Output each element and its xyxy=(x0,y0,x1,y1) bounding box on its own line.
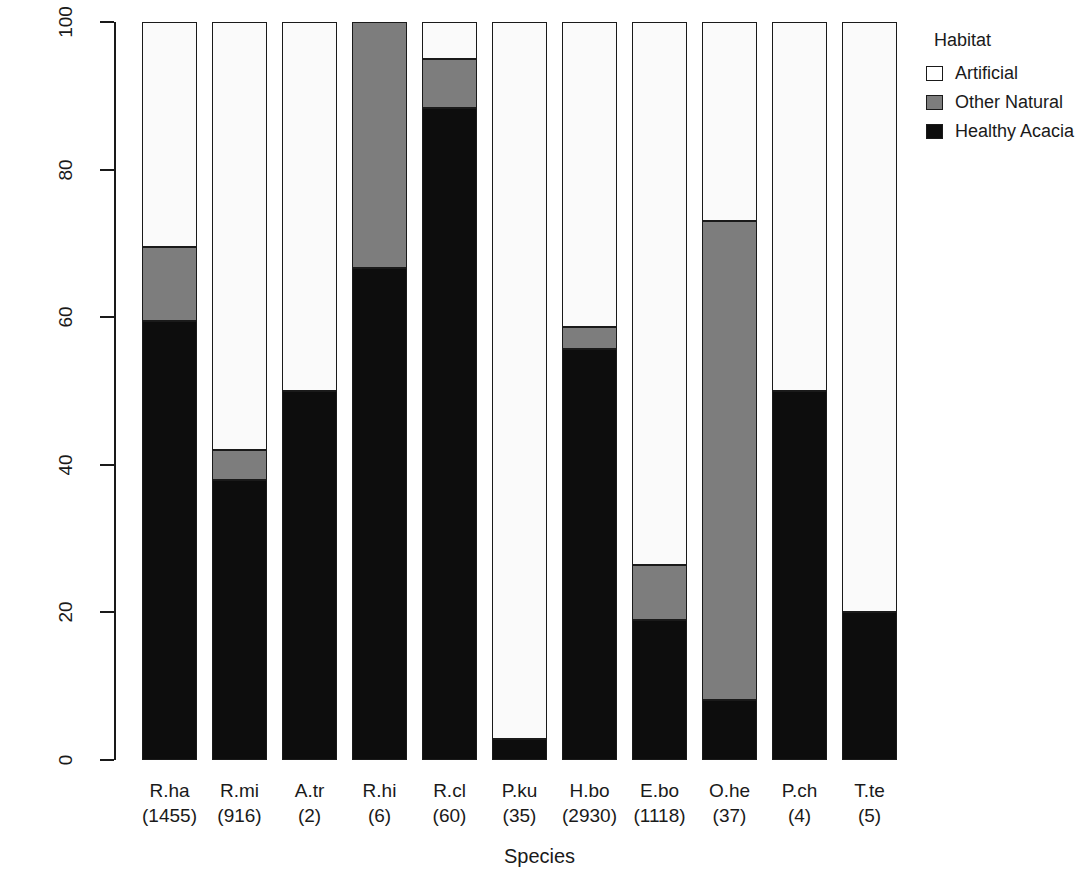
bar-p-ku[interactable] xyxy=(492,22,547,760)
chart-figure: Percent of total passes 020406080100 R.h… xyxy=(0,0,1079,884)
legend-swatch-healthy-icon xyxy=(926,124,943,139)
x-axis-label: T.te(5) xyxy=(825,778,915,828)
bar-segment-artificial[interactable] xyxy=(632,22,687,565)
bar-segment-artificial[interactable] xyxy=(142,22,197,247)
legend-item: Other Natural xyxy=(926,92,1074,113)
y-axis-tick-label: 20 xyxy=(36,601,96,623)
legend-items: ArtificialOther NaturalHealthy Acacia xyxy=(926,63,1074,142)
bar-segment-other[interactable] xyxy=(562,327,617,349)
legend-item: Healthy Acacia xyxy=(926,121,1074,142)
bar-segment-artificial[interactable] xyxy=(842,22,897,612)
legend-swatch-artificial-icon xyxy=(926,66,943,81)
bar-segment-other[interactable] xyxy=(142,247,197,321)
y-axis-tick-label: 40 xyxy=(36,454,96,476)
bar-r-hi[interactable] xyxy=(352,22,407,760)
bar-segment-healthy[interactable] xyxy=(352,268,407,760)
bar-p-ch[interactable] xyxy=(772,22,827,760)
y-axis-tick-label: 0 xyxy=(36,749,96,771)
bar-segment-artificial[interactable] xyxy=(772,22,827,391)
y-axis-tick xyxy=(100,611,114,613)
bar-segment-healthy[interactable] xyxy=(492,739,547,760)
y-axis-tick xyxy=(100,169,114,171)
legend-item: Artificial xyxy=(926,63,1074,84)
bar-t-te[interactable] xyxy=(842,22,897,760)
bar-segment-healthy[interactable] xyxy=(632,620,687,760)
x-axis-label-count: (5) xyxy=(825,803,915,828)
bar-r-mi[interactable] xyxy=(212,22,267,760)
bar-segment-other[interactable] xyxy=(702,221,757,700)
bar-o-he[interactable] xyxy=(702,22,757,760)
legend-item-label: Artificial xyxy=(955,63,1018,84)
legend-item-label: Other Natural xyxy=(955,92,1063,113)
legend: Habitat ArtificialOther NaturalHealthy A… xyxy=(926,30,1074,150)
y-axis-tick-label: 80 xyxy=(36,159,96,181)
y-axis-tick xyxy=(100,316,114,318)
bar-segment-healthy[interactable] xyxy=(702,700,757,760)
bar-segment-healthy[interactable] xyxy=(842,612,897,760)
y-axis-tick xyxy=(100,464,114,466)
bar-segment-healthy[interactable] xyxy=(282,391,337,760)
y-axis-tick-label-text: 40 xyxy=(55,435,77,495)
x-axis-label-species: T.te xyxy=(825,778,915,803)
bar-segment-healthy[interactable] xyxy=(142,321,197,760)
bar-segment-other[interactable] xyxy=(632,565,687,620)
y-axis-tick-label-text: 80 xyxy=(55,140,77,200)
bar-segment-artificial[interactable] xyxy=(492,22,547,739)
y-axis-tick-label: 60 xyxy=(36,306,96,328)
bar-segment-artificial[interactable] xyxy=(562,22,617,327)
bar-segment-healthy[interactable] xyxy=(562,349,617,760)
legend-swatch-other-icon xyxy=(926,95,943,110)
bar-segment-artificial[interactable] xyxy=(212,22,267,450)
bar-a-tr[interactable] xyxy=(282,22,337,760)
bar-segment-healthy[interactable] xyxy=(212,480,267,760)
plot-area xyxy=(114,22,1044,760)
y-axis-tick-label-text: 100 xyxy=(55,0,77,52)
bar-segment-artificial[interactable] xyxy=(422,22,477,59)
y-axis-tick-label-text: 0 xyxy=(55,730,77,790)
bar-segment-artificial[interactable] xyxy=(702,22,757,221)
bar-segment-other[interactable] xyxy=(212,450,267,480)
x-axis-title: Species xyxy=(0,845,1079,868)
bar-segment-healthy[interactable] xyxy=(422,108,477,760)
bar-r-ha[interactable] xyxy=(142,22,197,760)
bar-segment-artificial[interactable] xyxy=(282,22,337,391)
bar-segment-healthy[interactable] xyxy=(772,391,827,760)
bar-e-bo[interactable] xyxy=(632,22,687,760)
y-axis-tick-label: 100 xyxy=(36,11,96,33)
legend-item-label: Healthy Acacia xyxy=(955,121,1074,142)
legend-title: Habitat xyxy=(934,30,1074,51)
y-axis-tick-label-text: 60 xyxy=(55,287,77,347)
y-axis-tick xyxy=(100,759,114,761)
bar-h-bo[interactable] xyxy=(562,22,617,760)
bar-segment-other[interactable] xyxy=(422,59,477,108)
y-axis-tick xyxy=(100,21,114,23)
bar-segment-other[interactable] xyxy=(352,22,407,268)
bar-r-cl[interactable] xyxy=(422,22,477,760)
y-axis-tick-label-text: 20 xyxy=(55,582,77,642)
